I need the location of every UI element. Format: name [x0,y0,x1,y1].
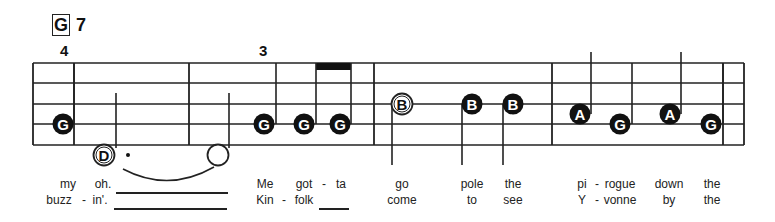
lyric-syllable: folk [295,193,314,207]
lyric-syllable: - [82,193,86,207]
dot [126,153,130,157]
lyric-extender-line [319,208,349,210]
lyric-syllable: Kin [256,193,273,207]
tie-curve [123,167,214,181]
lyric-syllable: the [505,177,522,191]
note-letter: G [614,116,626,133]
lyric-syllable: by [663,193,676,207]
lyric-syllable: Me [257,177,274,191]
note-letter: A [575,106,586,123]
lyric-extender-line [116,192,228,194]
lyric-syllable: got [296,177,313,191]
lyric-syllable: vonne [604,193,637,207]
lyric-syllable: rogue [605,177,636,191]
lyric-syllable: down [655,177,684,191]
lyric-syllable: Y [578,193,586,207]
lyric-syllable: to [467,193,477,207]
lyric-extender-line [114,208,227,210]
note-letter: G [258,116,270,133]
lyric-syllable: see [503,193,522,207]
lyric-syllable: - [322,177,326,191]
lyric-syllable: go [395,177,408,191]
note-letter: A [665,106,676,123]
note-head-open [208,145,229,166]
lyric-syllable: - [595,193,599,207]
lyric-syllable: - [282,193,286,207]
lyric-syllable: - [595,177,599,191]
note-letter: B [467,96,478,113]
note-letter: G [57,116,69,133]
note-letter: G [298,116,310,133]
lyric-syllable: the [704,177,721,191]
note-letter: B [508,96,519,113]
lyric-syllable: my [60,177,76,191]
lyric-syllable: in'. [93,193,108,207]
note-letter: B [397,96,408,113]
beam [316,63,351,70]
lyric-syllable: come [387,193,416,207]
lyric-syllable: pi [577,177,586,191]
note-letter: G [705,116,717,133]
lyric-syllable: buzz [46,193,71,207]
lyric-syllable: pole [461,177,484,191]
note-letter: G [334,116,346,133]
lyric-syllable: the [704,193,721,207]
lyric-syllable: oh. [95,177,112,191]
note-letter: D [99,147,110,164]
lyric-syllable: ta [336,177,346,191]
